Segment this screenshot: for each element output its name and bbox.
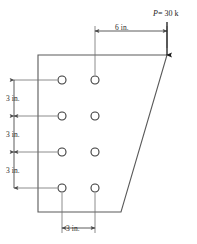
- bolt-hole: [58, 76, 66, 84]
- bolt-hole: [91, 148, 99, 156]
- load-magnitude: 30: [164, 9, 172, 18]
- gusset-plate-diagram: [0, 0, 197, 244]
- dimension-label-horizontal-bottom: 3 in.: [66, 224, 80, 233]
- bolt-hole: [91, 76, 99, 84]
- dimension-label-vertical-3: 3 in.: [6, 166, 20, 175]
- plate-outline: [38, 55, 167, 212]
- dimension-label-eccentricity: 6 in.: [115, 23, 129, 32]
- bolt-hole: [91, 112, 99, 120]
- bolt-hole: [91, 184, 99, 192]
- dimension-label-vertical-2: 3 in.: [6, 130, 20, 139]
- bolt-hole: [58, 184, 66, 192]
- dimension-label-vertical-1: 3 in.: [6, 94, 20, 103]
- load-label: P= 30 k: [153, 9, 178, 18]
- figure-canvas: P= 30 k 6 in. 3 in. 3 in. 3 in. 3 in.: [0, 0, 197, 244]
- bolt-hole: [58, 148, 66, 156]
- bolt-hole: [58, 112, 66, 120]
- load-unit: k: [174, 9, 178, 18]
- load-equals: =: [158, 9, 163, 18]
